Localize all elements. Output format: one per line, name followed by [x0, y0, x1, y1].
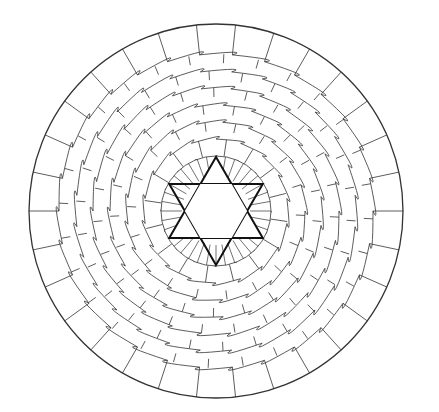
cell-divider	[292, 185, 301, 188]
cell-divider	[173, 353, 175, 362]
cell-divider	[71, 268, 79, 271]
cell-divider	[259, 136, 264, 144]
ring-divider	[359, 275, 386, 287]
cell-divider	[226, 290, 227, 299]
cell-divider	[169, 316, 172, 324]
cell-divider	[101, 251, 109, 254]
cell-divider	[244, 149, 253, 164]
cell-divider	[146, 224, 162, 228]
cell-divider	[327, 184, 336, 186]
cell-divider	[206, 265, 208, 282]
cell-divider	[172, 114, 176, 122]
mandala-artwork	[0, 0, 439, 412]
cell-divider	[145, 201, 162, 203]
cell-divider	[284, 135, 290, 141]
cell-divider	[196, 289, 198, 298]
cell-divider	[78, 233, 87, 235]
cell-divider	[65, 168, 74, 170]
cell-divider	[273, 105, 278, 113]
cell-divider	[146, 132, 152, 139]
cell-divider	[131, 235, 140, 238]
cell-divider	[298, 125, 304, 131]
cell-divider	[150, 107, 155, 115]
cell-divider	[229, 264, 233, 280]
cell-divider	[151, 150, 158, 156]
ring-divider	[45, 135, 72, 147]
ring-divider	[33, 244, 62, 250]
cell-divider	[155, 66, 158, 74]
ring-divider	[158, 360, 167, 389]
cell-divider	[141, 341, 145, 349]
cell-divider	[290, 242, 298, 245]
cell-divider	[224, 140, 226, 157]
cell-divider	[316, 152, 324, 156]
cell-divider	[182, 303, 185, 312]
cell-divider	[245, 92, 247, 101]
ring-divider	[370, 172, 399, 178]
cell-divider	[179, 258, 188, 273]
cell-divider	[346, 282, 354, 286]
cell-divider	[234, 124, 236, 133]
cell-divider	[132, 270, 139, 275]
cell-divider	[311, 190, 320, 192]
ring-divider	[123, 347, 138, 373]
cell-divider	[269, 292, 274, 300]
ring-divider	[370, 244, 399, 250]
ring-divider	[91, 72, 111, 94]
cell-divider	[283, 324, 288, 332]
cell-divider	[314, 93, 320, 100]
cell-divider	[327, 280, 335, 285]
cell-divider	[125, 129, 132, 135]
ring-divider	[158, 33, 167, 62]
cell-divider	[341, 251, 350, 254]
cell-divider	[234, 324, 235, 333]
cell-divider	[189, 340, 191, 349]
cell-divider	[203, 106, 204, 115]
cell-divider	[158, 244, 172, 254]
cell-divider	[275, 265, 282, 271]
cell-divider	[112, 322, 118, 329]
cell-divider	[345, 187, 354, 189]
cell-divider	[320, 126, 327, 131]
cell-divider	[249, 255, 259, 269]
cell-divider	[347, 220, 356, 221]
cell-divider	[124, 84, 129, 91]
cell-divider	[175, 132, 179, 140]
cell-divider	[126, 156, 134, 161]
cell-divider	[233, 107, 235, 116]
ring-divider	[196, 367, 199, 397]
cell-divider	[256, 60, 258, 69]
cell-divider	[88, 264, 96, 268]
cell-divider	[290, 273, 297, 279]
cell-divider	[336, 119, 343, 124]
cell-divider	[168, 278, 173, 286]
cell-divider	[352, 150, 360, 153]
cell-divider	[154, 174, 169, 183]
cell-divider	[98, 107, 105, 113]
cell-divider	[89, 297, 96, 302]
cell-divider	[76, 201, 85, 202]
ring-divider	[359, 135, 386, 147]
cell-divider	[302, 331, 307, 338]
cell-divider	[93, 221, 102, 222]
cell-divider	[301, 160, 309, 164]
cell-divider	[134, 176, 142, 179]
ring-divider	[321, 72, 341, 94]
cell-divider	[298, 102, 304, 109]
cell-divider	[280, 157, 287, 162]
cell-divider	[95, 188, 104, 190]
cell-divider	[201, 324, 202, 333]
cell-divider	[113, 185, 122, 187]
ring-divider	[343, 303, 367, 321]
ring-divider	[91, 328, 111, 350]
ring-divider	[232, 25, 235, 55]
cell-divider	[327, 309, 334, 315]
cell-divider	[273, 347, 276, 355]
cell-divider	[154, 290, 159, 297]
cell-divider	[263, 239, 278, 248]
cell-divider	[189, 56, 191, 65]
ring-divider	[123, 49, 138, 75]
cell-divider	[358, 251, 367, 253]
cell-divider	[252, 282, 256, 290]
cell-divider	[205, 123, 206, 132]
